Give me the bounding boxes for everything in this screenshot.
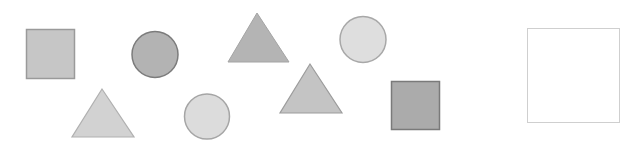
circle-2 xyxy=(340,17,386,63)
circle-1 xyxy=(132,32,178,78)
circle-3 xyxy=(185,94,230,139)
shapes-svg xyxy=(0,0,642,145)
answer-box[interactable] xyxy=(528,29,620,123)
triangle-2 xyxy=(72,89,134,137)
square-2 xyxy=(392,82,440,130)
square-1 xyxy=(27,30,75,79)
shapes-canvas xyxy=(0,0,642,145)
triangle-1 xyxy=(228,13,289,62)
triangle-3 xyxy=(280,64,342,113)
